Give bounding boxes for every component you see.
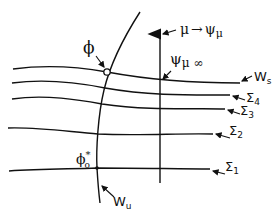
label-sigma-1: Σ1 xyxy=(225,159,239,176)
label-phi0-star: ϕ*o xyxy=(76,149,91,170)
point-phi0-star xyxy=(95,166,99,170)
curve-sigma-2 xyxy=(8,128,213,135)
label-sigma-3: Σ3 xyxy=(240,103,254,120)
curve-sigma-4 xyxy=(12,81,230,95)
curve-sigma-1 xyxy=(9,168,210,171)
label-mu-to-psi: μ→ψμ xyxy=(180,21,223,40)
label-psi-mu-inf: ψμ ∞ xyxy=(170,50,203,70)
label-sigma-2: Σ2 xyxy=(229,123,243,140)
point-phi xyxy=(104,69,110,75)
curve-sigma-3 xyxy=(12,97,225,109)
label-phi: ϕ xyxy=(83,37,95,57)
label-ws: Ws xyxy=(254,69,272,86)
invariant-manifold-diagram: ϕ ϕ*o μ→ψμ ψμ ∞ Ws Σ4 Σ3 Σ2 Σ1 Wu xyxy=(0,0,278,215)
label-wu: Wu xyxy=(113,194,132,211)
